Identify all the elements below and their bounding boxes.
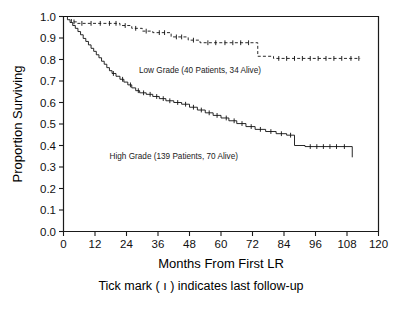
- x-axis-tick-labels: 01224364860728496108120: [60, 238, 388, 250]
- survival-curve-high-grade: [64, 17, 353, 158]
- x-tick-label: 0: [60, 238, 66, 250]
- y-tick-label: 0.2: [40, 183, 56, 195]
- x-tick-label: 120: [369, 238, 388, 250]
- y-tick-label: 0.0: [40, 226, 56, 238]
- x-tick-label: 36: [152, 238, 165, 250]
- series-label-high-grade: High Grade (139 Patients, 70 Alive): [110, 152, 239, 161]
- y-tick-label: 0.8: [40, 54, 56, 66]
- y-axis-ticks: [59, 17, 64, 232]
- x-tick-label: 108: [337, 238, 356, 250]
- y-tick-label: 0.4: [40, 140, 57, 152]
- y-tick-label: 0.1: [40, 204, 56, 216]
- x-tick-label: 48: [183, 238, 196, 250]
- survival-curves: [64, 17, 361, 158]
- y-tick-label: 0.3: [40, 161, 56, 173]
- km-chart-svg: 01224364860728496108120 0.00.10.20.30.40…: [0, 0, 402, 309]
- x-tick-label: 84: [278, 238, 291, 250]
- y-axis-tick-labels: 0.00.10.20.30.40.50.60.70.80.91.0: [40, 11, 57, 238]
- y-tick-label: 0.9: [40, 32, 56, 44]
- x-axis-title: Months From First LR: [158, 256, 284, 271]
- y-tick-label: 1.0: [40, 11, 56, 23]
- series-annotations: Low Grade (40 Patients, 34 Alive)High Gr…: [110, 66, 262, 161]
- y-tick-label: 0.7: [40, 75, 56, 87]
- y-tick-label: 0.5: [40, 118, 56, 130]
- figure-caption: Tick mark ( ı ) indicates last follow-up: [98, 279, 303, 293]
- km-survival-figure: 01224364860728496108120 0.00.10.20.30.40…: [0, 0, 402, 309]
- x-tick-label: 72: [246, 238, 259, 250]
- plot-frame-border: [64, 17, 379, 232]
- series-label-low-grade: Low Grade (40 Patients, 34 Alive): [139, 66, 261, 75]
- y-axis-title: Proportion Surviving: [10, 65, 25, 182]
- x-tick-label: 12: [89, 238, 102, 250]
- x-tick-label: 96: [309, 238, 322, 250]
- y-tick-label: 0.6: [40, 97, 56, 109]
- x-axis-ticks: [64, 232, 379, 237]
- plot-frame: [64, 17, 379, 232]
- x-tick-label: 24: [120, 238, 133, 250]
- x-tick-label: 60: [215, 238, 228, 250]
- survival-curve-low-grade: [64, 17, 361, 59]
